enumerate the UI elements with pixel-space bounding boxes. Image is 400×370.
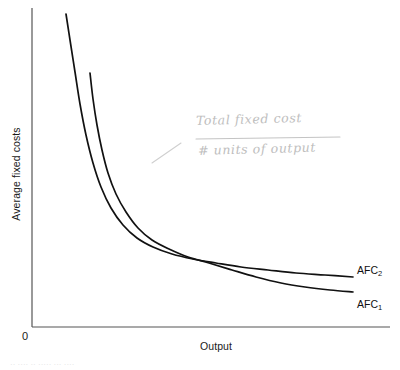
- curve-afc1: [90, 73, 353, 292]
- plot-canvas: [0, 0, 400, 370]
- annotation-fraction-bar: [196, 137, 340, 139]
- curve-label-afc1-subscript: 1: [378, 303, 382, 312]
- origin-label: 0: [22, 330, 28, 342]
- curve-label-afc2-subscript: 2: [378, 269, 382, 278]
- curve-label-afc2: AFC2: [357, 264, 382, 276]
- curve-label-afc2-text: AFC: [357, 264, 378, 276]
- afc-figure: Average fixed costs Output 0 AFC2 AFC1 T…: [0, 0, 400, 370]
- curve-label-afc1-text: AFC: [357, 298, 378, 310]
- curve-label-afc1: AFC1: [357, 298, 382, 310]
- y-axis-title: Average fixed costs: [10, 114, 22, 234]
- annotation-numerator: Total fixed cost: [196, 110, 302, 128]
- x-axis-title: Output: [168, 340, 264, 352]
- annotation-leader-line: [152, 143, 181, 163]
- bottom-cutoff-caption: ·· ···· ·· ····· ··· ····: [10, 360, 240, 368]
